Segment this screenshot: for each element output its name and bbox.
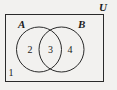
region-label-outside: 1 <box>9 67 14 78</box>
region-label-intersection: 3 <box>48 44 53 55</box>
universal-set-label: U <box>99 1 108 13</box>
venn-diagram-canvas: U A B 1 2 3 4 <box>0 0 117 90</box>
set-a-label: A <box>17 18 25 30</box>
venn-diagram-figure: U A B 1 2 3 4 <box>0 0 117 90</box>
set-b-label: B <box>77 18 85 30</box>
region-label-b-only: 4 <box>68 44 73 55</box>
region-label-a-only: 2 <box>28 44 33 55</box>
